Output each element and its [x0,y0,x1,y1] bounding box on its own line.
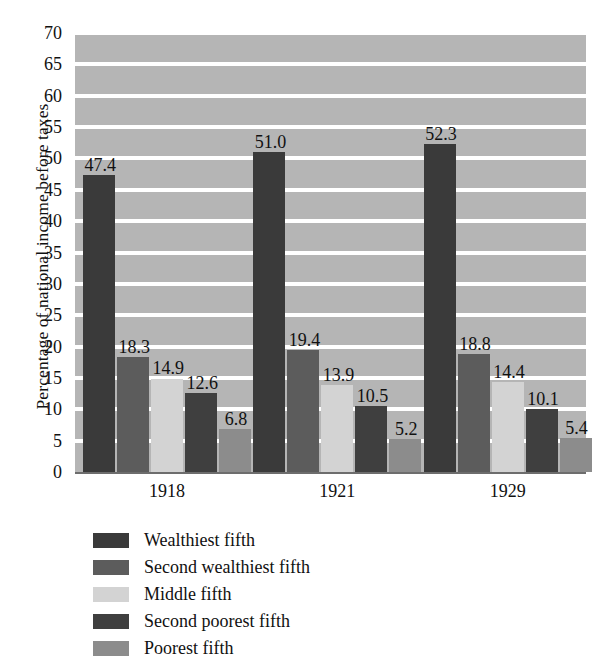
bar-value-label: 51.0 [255,133,287,152]
legend-item[interactable]: Second poorest fifth [93,608,513,634]
bar-value-label: 47.4 [85,156,117,175]
bar[interactable]: 14.4 [492,382,524,472]
legend-item[interactable]: Wealthiest fifth [93,527,513,553]
bar-value-label: 18.3 [119,338,151,357]
chart-figure: Percentage of national income before tax… [0,0,596,670]
bar[interactable]: 6.8 [219,429,251,472]
y-axis-tick-label: 55 [22,118,62,136]
bar-value-label: 5.4 [565,419,588,438]
y-axis-tick-label: 35 [22,244,62,262]
gridline [75,94,586,98]
legend-item[interactable]: Poorest fifth [93,635,513,661]
legend-label: Second wealthiest fifth [144,558,310,576]
bar-value-label: 18.8 [459,335,491,354]
y-axis-tick-label: 15 [22,369,62,387]
bar[interactable]: 5.4 [560,438,592,472]
y-axis-tick-label: 70 [22,24,62,42]
gridline [75,31,586,35]
y-axis-tick-label: 50 [22,149,62,167]
bar[interactable]: 51.0 [253,152,285,472]
y-axis-tick-label: 5 [22,432,62,450]
gridline [75,282,586,286]
bar[interactable]: 18.8 [458,354,490,472]
gridline [75,62,586,66]
legend-label: Poorest fifth [144,639,234,657]
legend-swatch-icon [93,533,129,548]
legend-swatch-icon [93,614,129,629]
legend-item[interactable]: Second wealthiest fifth [93,554,513,580]
y-axis-tick-label: 25 [22,306,62,324]
x-axis-tick-label: 1929 [468,481,548,502]
bar-value-label: 5.2 [395,420,418,439]
bar[interactable]: 10.5 [355,406,387,472]
bar-value-label: 6.8 [225,410,248,429]
bar[interactable]: 13.9 [321,385,353,472]
y-axis-tick-labels: 0510152025303540455055606570 [0,0,68,670]
x-axis-line [75,472,586,474]
bar[interactable]: 5.2 [389,439,421,472]
bar-value-label: 13.9 [323,366,355,385]
legend-item[interactable]: Middle fifth [93,581,513,607]
gridline [75,313,586,317]
y-axis-tick-label: 45 [22,181,62,199]
bar[interactable]: 10.1 [526,409,558,472]
bar[interactable]: 52.3 [424,144,456,472]
y-axis-tick-label: 10 [22,400,62,418]
gridline [75,156,586,160]
y-axis-tick-label: 65 [22,55,62,73]
gridline [75,345,586,349]
y-axis-tick-label: 30 [22,275,62,293]
bar-value-label: 14.9 [153,359,185,378]
legend-swatch-icon [93,560,129,575]
bar-value-label: 12.6 [187,374,219,393]
y-axis-tick-label: 20 [22,338,62,356]
bar[interactable]: 14.9 [151,379,183,472]
legend-label: Second poorest fifth [144,612,290,630]
y-axis-tick-label: 0 [22,463,62,481]
legend-swatch-icon [93,587,129,602]
y-axis-tick-label: 40 [22,212,62,230]
bar-value-label: 52.3 [425,125,457,144]
y-axis-tick-label: 60 [22,87,62,105]
plot-area: 47.418.314.912.66.851.019.413.910.55.252… [75,33,586,472]
x-axis-tick-label: 1918 [127,481,207,502]
x-axis-tick-label: 1921 [297,481,377,502]
bar[interactable]: 12.6 [185,393,217,472]
bar-value-label: 19.4 [289,331,321,350]
gridline [75,188,586,192]
bar-value-label: 10.1 [527,390,559,409]
gridline [75,125,586,129]
bar[interactable]: 18.3 [117,357,149,472]
legend-swatch-icon [93,641,129,656]
bar[interactable]: 47.4 [83,175,115,472]
legend-label: Middle fifth [144,585,232,603]
gridline [75,251,586,255]
chart-legend: Wealthiest fifthSecond wealthiest fifthM… [93,527,513,662]
bar-value-label: 14.4 [493,363,525,382]
gridline [75,219,586,223]
legend-label: Wealthiest fifth [144,531,255,549]
bar-value-label: 10.5 [357,387,389,406]
bar[interactable]: 19.4 [287,350,319,472]
